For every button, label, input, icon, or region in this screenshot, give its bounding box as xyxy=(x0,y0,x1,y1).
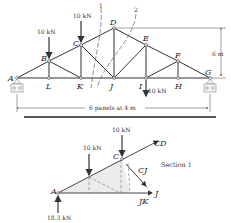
section-label-2: 2 xyxy=(134,6,138,13)
height-dim-label: 6 m xyxy=(212,50,224,57)
force-label-JK: JK xyxy=(137,197,149,206)
node-label-A: A xyxy=(7,74,14,83)
section-label-1: 1 xyxy=(99,2,103,9)
fbd-node-label-A: A xyxy=(50,187,57,196)
reaction-label: 18.3 kN xyxy=(47,214,71,221)
load-label-I: 10 kN xyxy=(148,87,166,94)
member-FI xyxy=(146,61,178,78)
fbd-load-label-1: 10 kN xyxy=(83,144,101,151)
fbd-node-label-J: J xyxy=(153,189,159,198)
support-G xyxy=(204,79,216,92)
node-label-D: D xyxy=(109,18,117,27)
truss-diagram: 10 kN 10 kN 10 kN 1 2 A B C D E F G L K … xyxy=(0,0,231,223)
fbd-node-label-C: C xyxy=(113,152,119,161)
node-label-I: I xyxy=(138,82,143,91)
span-dim-label: 6 panels at 4 m xyxy=(89,104,136,112)
force-label-CD: CD xyxy=(154,139,167,148)
node-label-L: L xyxy=(45,82,51,91)
section-title: Section 1 xyxy=(161,161,192,169)
node-label-H: H xyxy=(174,82,183,91)
node-label-C: C xyxy=(73,39,79,48)
node-label-G: G xyxy=(205,68,212,77)
node-label-J: J xyxy=(108,82,114,91)
node-label-K: K xyxy=(76,82,84,91)
node-label-B: B xyxy=(40,54,47,63)
force-label-CJ: CJ xyxy=(138,166,148,175)
shaded-section xyxy=(58,159,130,193)
section-line-1 xyxy=(91,8,101,88)
section-line-2 xyxy=(97,14,136,88)
member-EJ xyxy=(114,45,146,78)
member-BK xyxy=(49,61,81,78)
truss-loads xyxy=(49,21,146,96)
load-label-B: 10 kN xyxy=(37,28,55,35)
truss xyxy=(17,28,210,78)
node-label-E: E xyxy=(142,34,149,43)
member-CJ xyxy=(81,45,114,78)
fbd-load-label-2: 10 kN xyxy=(112,126,130,133)
node-label-F: F xyxy=(174,51,181,60)
load-label-C: 10 kN xyxy=(73,12,91,19)
